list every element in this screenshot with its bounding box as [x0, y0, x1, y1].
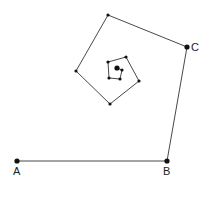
spiral-path — [17, 15, 187, 161]
vertex-point — [106, 60, 109, 63]
vertex-point — [118, 77, 121, 80]
label-c: C — [191, 42, 199, 53]
point-b — [164, 158, 169, 163]
vertex-point — [108, 102, 111, 105]
vertex-point — [124, 55, 127, 58]
vertex-point — [137, 79, 140, 82]
point-a — [14, 158, 19, 163]
vertex-point — [74, 69, 77, 72]
vertex-point — [107, 76, 110, 79]
vertex-point — [114, 65, 119, 70]
vertex-point — [120, 68, 123, 71]
label-a: A — [13, 166, 20, 177]
vertex-point — [106, 13, 109, 16]
vertex-points — [14, 13, 189, 163]
label-b: B — [163, 166, 170, 177]
point-c — [184, 44, 189, 49]
spiral-diagram — [0, 0, 210, 198]
